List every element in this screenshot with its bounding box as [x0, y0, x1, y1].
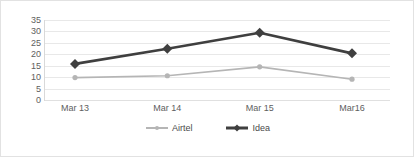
y-tick-label: 35 — [1, 16, 41, 25]
y-tick-label: 0 — [1, 96, 41, 105]
y-tick-label: 25 — [1, 38, 41, 47]
series-airtel — [72, 64, 354, 82]
data-point — [162, 44, 172, 54]
x-tick-label: Mar 15 — [246, 102, 274, 114]
chart-legend: AirtelIdea — [1, 123, 414, 133]
legend-item-airtel[interactable]: Airtel — [146, 123, 193, 133]
y-tick-label: 5 — [1, 84, 41, 93]
x-axis-tick-labels: Mar 13Mar 14Mar 15Mar16 — [45, 102, 390, 118]
legend-label: Airtel — [172, 123, 193, 133]
y-tick-label: 20 — [1, 50, 41, 59]
series-layer — [45, 20, 390, 100]
legend-swatch-icon — [226, 124, 248, 133]
y-axis-tick-labels: 05101520253035 — [1, 20, 41, 100]
x-tick-label: Mar16 — [339, 102, 365, 114]
data-point — [165, 73, 170, 78]
legend-label: Idea — [252, 123, 270, 133]
line-chart: 05101520253035 Mar 13Mar 14Mar 15Mar16 A… — [0, 0, 414, 157]
data-point — [255, 28, 265, 38]
legend-item-idea[interactable]: Idea — [226, 123, 270, 133]
data-point — [347, 48, 357, 58]
plot-area — [45, 20, 390, 100]
data-point — [349, 77, 354, 82]
x-tick-label: Mar 14 — [153, 102, 181, 114]
y-tick-label: 30 — [1, 27, 41, 36]
data-point — [72, 75, 77, 80]
series-line — [75, 67, 352, 79]
data-point — [257, 64, 262, 69]
x-tick-label: Mar 13 — [61, 102, 89, 114]
y-tick-label: 10 — [1, 73, 41, 82]
legend-marker — [155, 126, 159, 130]
series-line — [75, 33, 352, 64]
axis-baseline — [45, 100, 390, 101]
legend-swatch-icon — [146, 124, 168, 133]
y-tick-label: 15 — [1, 61, 41, 70]
data-point — [70, 59, 80, 69]
series-idea — [70, 28, 357, 69]
